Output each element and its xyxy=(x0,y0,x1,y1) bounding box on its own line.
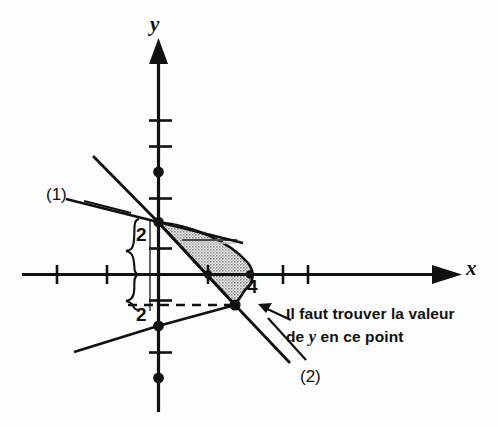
brace-label-upper-2: 2 xyxy=(136,225,147,244)
graph-drawing xyxy=(0,0,498,427)
brace-label-lower-2: 2 xyxy=(136,305,147,324)
point-region-edge xyxy=(204,270,212,278)
point-dot xyxy=(153,373,164,384)
callout-annotation: Il faut trouver la valeur de y en ce poi… xyxy=(286,303,455,349)
point-dot xyxy=(153,167,164,178)
line-tag-2: (2) xyxy=(300,368,321,385)
callout-line-2: de y en ce point xyxy=(286,325,455,349)
x-tick-label-4: 4 xyxy=(247,277,258,296)
point-intersection-top xyxy=(153,217,163,227)
point-dot xyxy=(153,321,164,332)
line-tag-1: (1) xyxy=(46,186,67,203)
y-axis-label: y xyxy=(150,14,159,35)
callout-line-2-post: en ce point xyxy=(316,328,403,345)
x-axis-label: x xyxy=(466,258,477,279)
callout-line-1: Il faut trouver la valeur xyxy=(286,303,455,325)
leader-line-tag-1 xyxy=(84,201,131,213)
point-target xyxy=(229,299,240,310)
figure-canvas: y x 4 2 2 (1) (2) Il faut trouver la val… xyxy=(0,0,498,427)
line-2 xyxy=(93,156,290,363)
callout-line-2-pre: de xyxy=(286,328,309,345)
